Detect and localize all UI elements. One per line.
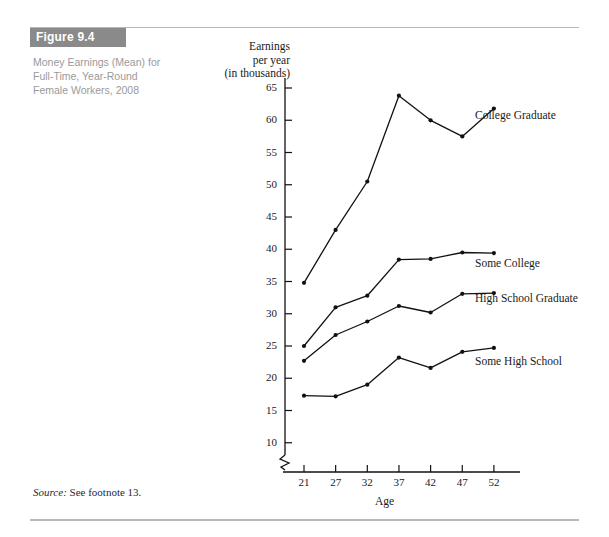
series-data-point [302, 281, 306, 285]
series-data-point [365, 294, 369, 298]
series-data-point [302, 359, 306, 363]
series-data-point [397, 258, 401, 262]
series-label: Some High School [475, 355, 562, 367]
x-axis-tick-label: 52 [481, 476, 507, 488]
series-data-point [334, 394, 338, 398]
y-axis-tick-label: 15 [251, 404, 277, 416]
y-axis-tick-label: 60 [251, 113, 277, 125]
series-data-point [460, 134, 464, 138]
series-data-point [334, 228, 338, 232]
series-data-point [397, 94, 401, 98]
x-axis-title: Age [375, 495, 394, 507]
source-label: Source: [33, 486, 67, 498]
y-axis-title-line-2: per year [198, 54, 290, 68]
figure-page: Figure 9.4 Money Earnings (Mean) for Ful… [0, 0, 609, 537]
series-data-point [334, 305, 338, 309]
series-line [304, 253, 494, 347]
series-label: High School Graduate [475, 292, 578, 304]
x-axis-tick-label: 42 [418, 476, 444, 488]
series-data-point [302, 344, 306, 348]
figure-caption-line-2: Full-Time, Year-Round [33, 69, 208, 83]
series-data-point [365, 383, 369, 387]
y-axis-tick-label: 10 [251, 436, 277, 448]
y-axis-tick-label: 40 [251, 242, 277, 254]
series-data-point [365, 179, 369, 183]
series-line [304, 96, 494, 283]
series-data-point [460, 250, 464, 254]
figure-caption-line-3: Female Workers, 2008 [33, 83, 208, 97]
figure-caption: Money Earnings (Mean) for Full-Time, Yea… [33, 55, 208, 97]
x-axis-tick-label: 21 [291, 476, 317, 488]
series-line [304, 293, 494, 361]
series-data-point [492, 346, 496, 350]
series-data-point [302, 394, 306, 398]
series-label: Some College [475, 257, 540, 269]
y-axis-tick-label: 45 [251, 210, 277, 222]
y-axis-title: Earnings per year (in thousands) [198, 40, 290, 81]
y-axis-title-line-3: (in thousands) [198, 67, 290, 81]
source-note: Source: See footnote 13. [33, 486, 141, 498]
y-axis-tick-label: 35 [251, 275, 277, 287]
series-data-point [365, 319, 369, 323]
x-axis-tick-label: 32 [354, 476, 380, 488]
series-data-point [460, 350, 464, 354]
y-axis-title-line-1: Earnings [198, 40, 290, 54]
series-data-point [429, 310, 433, 314]
bottom-rule [30, 519, 579, 521]
series-data-point [397, 356, 401, 360]
series-line [304, 348, 494, 396]
series-data-point [460, 292, 464, 296]
x-axis-tick-label: 47 [449, 476, 475, 488]
series-label: College Graduate [475, 109, 556, 121]
series-data-point [429, 118, 433, 122]
figure-number-tab: Figure 9.4 [30, 28, 126, 47]
y-axis-tick-label: 25 [251, 339, 277, 351]
figure-caption-line-1: Money Earnings (Mean) for [33, 55, 208, 69]
series-data-point [429, 366, 433, 370]
series-data-point [397, 304, 401, 308]
series-data-point [492, 251, 496, 255]
y-axis-tick-label: 30 [251, 307, 277, 319]
series-data-point [429, 257, 433, 261]
x-axis-tick-label: 27 [323, 476, 349, 488]
y-axis-tick-label: 20 [251, 371, 277, 383]
y-axis-tick-label: 55 [251, 146, 277, 158]
series-data-point [334, 333, 338, 337]
y-axis-tick-label: 50 [251, 178, 277, 190]
y-axis-tick-label: 65 [251, 81, 277, 93]
source-text: See footnote 13. [67, 486, 142, 498]
axis-break-mark [280, 455, 289, 470]
x-axis-tick-label: 37 [386, 476, 412, 488]
